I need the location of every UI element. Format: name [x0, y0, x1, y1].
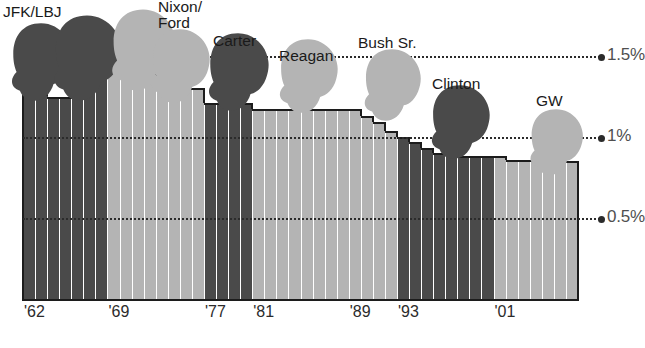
- gridline-end-dot: [598, 135, 605, 142]
- bar-1997: [445, 153, 458, 299]
- bar-1966: [71, 97, 84, 300]
- gridline-end-dot: [598, 54, 605, 61]
- bar-1999: [469, 156, 482, 299]
- president-label-jfk-lbj: JFK/LBJ: [3, 4, 62, 20]
- bar-1964: [47, 97, 60, 300]
- president-label-nixon-ford: Nixon/ Ford: [158, 0, 202, 31]
- x-axis-tick-label-1993: '93: [398, 303, 419, 321]
- bar-1996: [433, 153, 446, 299]
- bar-1973: [156, 75, 169, 299]
- bar-1994: [409, 142, 422, 299]
- x-axis-tick-label-1962: '62: [24, 303, 45, 321]
- bar-1995: [421, 148, 434, 299]
- president-head-icon-gw: [527, 108, 585, 176]
- y-axis-tick-label: 1.5%: [607, 45, 645, 65]
- bar-1998: [457, 156, 470, 299]
- bar-2000: [481, 156, 494, 299]
- x-axis-tick-label-1989: '89: [350, 303, 371, 321]
- x-axis-tick-label-1977: '77: [205, 303, 226, 321]
- bar-top-outline: [506, 160, 519, 162]
- step-connector: [420, 142, 422, 148]
- president-head-icon-bush-sr: [361, 48, 423, 122]
- x-axis-tick-label-1981: '81: [253, 303, 274, 321]
- president-label-bush-sr: Bush Sr.: [358, 35, 417, 51]
- series-right-edge: [577, 161, 579, 299]
- step-connector: [396, 131, 398, 137]
- bar-1962: [23, 84, 36, 299]
- series-left-edge: [22, 84, 24, 299]
- bar-1967: [83, 72, 96, 299]
- bar-2002: [506, 160, 519, 299]
- y-axis-tick-label: 0.5%: [607, 207, 645, 227]
- baseline-axis: [22, 299, 579, 301]
- population-growth-chart: 1.5%1%0.5% '62'69'77'81'89'93'01 JFK/LBJ…: [0, 0, 645, 348]
- x-axis-tick-label-2001: '01: [495, 303, 516, 321]
- president-head-icon-clinton: [428, 84, 492, 160]
- bar-1979: [228, 103, 241, 299]
- bar-1990: [361, 116, 374, 299]
- bar-1992: [385, 131, 398, 299]
- president-label-gw: GW: [536, 93, 563, 109]
- bar-2004: [530, 160, 543, 299]
- bar-1976: [192, 88, 205, 299]
- bar-1975: [180, 88, 193, 299]
- y-axis-tick-label: 1%: [607, 126, 631, 146]
- bar-1963: [35, 84, 48, 299]
- gridline-end-dot: [598, 216, 605, 223]
- president-label-clinton: Clinton: [432, 76, 480, 92]
- bar-1980: [240, 103, 253, 299]
- gridline-0p5%: [23, 218, 600, 220]
- gridline-1%: [23, 137, 600, 139]
- bar-2006: [554, 161, 567, 299]
- x-axis-tick-label-1969: '69: [108, 303, 129, 321]
- president-label-carter: Carter: [213, 33, 256, 49]
- bar-1968: [95, 72, 108, 299]
- step-connector: [384, 122, 386, 130]
- bar-1965: [59, 97, 72, 300]
- bar-2005: [542, 161, 555, 299]
- president-head-icon-nixon-ford: [148, 28, 212, 104]
- bar-1974: [168, 75, 181, 299]
- bar-2003: [518, 160, 531, 299]
- bar-1991: [373, 122, 386, 299]
- bar-2001: [494, 156, 507, 299]
- president-label-reagan: Reagan: [279, 48, 333, 64]
- bar-1978: [216, 103, 229, 299]
- bar-1977: [204, 103, 217, 299]
- chart-plot-area: 1.5%1%0.5% '62'69'77'81'89'93'01 JFK/LBJ…: [0, 0, 645, 348]
